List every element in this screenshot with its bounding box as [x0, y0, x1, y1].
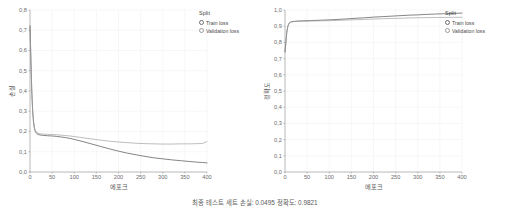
- svg-text:0,7: 0,7: [274, 56, 282, 62]
- svg-text:250: 250: [136, 174, 145, 180]
- svg-text:0,8: 0,8: [19, 7, 27, 13]
- legend-item-label: Validation loss: [206, 27, 239, 35]
- svg-text:0,5: 0,5: [19, 68, 27, 74]
- svg-text:350: 350: [180, 174, 189, 180]
- open-circle-icon: [199, 20, 204, 25]
- svg-text:에포크: 에포크: [365, 183, 383, 191]
- open-circle-icon: [445, 20, 450, 25]
- svg-text:400: 400: [457, 174, 466, 180]
- svg-text:300: 300: [158, 174, 167, 180]
- svg-text:150: 150: [92, 174, 101, 180]
- svg-text:0,6: 0,6: [274, 72, 282, 78]
- svg-text:손실: 손실: [8, 85, 15, 97]
- svg-text:0,0: 0,0: [19, 169, 27, 175]
- figure-caption: 최종 테스트 세트 손실: 0.0495 정확도: 0.9821: [0, 198, 510, 207]
- svg-text:150: 150: [347, 174, 356, 180]
- svg-text:0: 0: [28, 174, 31, 180]
- svg-text:200: 200: [369, 174, 378, 180]
- svg-text:0,3: 0,3: [274, 120, 282, 126]
- svg-text:0,4: 0,4: [274, 104, 282, 110]
- legend-title: Split: [199, 9, 239, 17]
- svg-text:1,0: 1,0: [274, 7, 282, 13]
- loss-legend: Split Train loss Validation loss: [199, 9, 239, 35]
- legend-item-train-loss[interactable]: Train loss: [445, 19, 485, 27]
- svg-text:0,5: 0,5: [274, 88, 282, 94]
- legend-item-label: Train loss: [452, 19, 474, 27]
- svg-text:0,0: 0,0: [274, 169, 282, 175]
- legend-title: Split: [445, 9, 485, 17]
- legend-item-validation-loss[interactable]: Validation loss: [199, 27, 239, 35]
- open-circle-icon: [199, 28, 204, 33]
- svg-text:0,1: 0,1: [274, 153, 282, 159]
- training-curves-figure: 0,00,10,20,30,40,50,60,70,80501001502002…: [0, 0, 510, 210]
- svg-text:0,4: 0,4: [19, 88, 27, 94]
- open-circle-icon: [445, 28, 450, 33]
- svg-text:50: 50: [304, 174, 310, 180]
- loss-panel: 0,00,10,20,30,40,50,60,70,80501001502002…: [0, 0, 255, 210]
- svg-text:0,7: 0,7: [19, 27, 27, 33]
- svg-text:0,3: 0,3: [19, 108, 27, 114]
- legend-item-validation-loss[interactable]: Validation loss: [445, 27, 485, 35]
- svg-text:정확도: 정확도: [263, 82, 271, 100]
- accuracy-legend: Split Train loss Validation loss: [445, 9, 485, 35]
- svg-text:0,2: 0,2: [274, 137, 282, 143]
- legend-item-train-loss[interactable]: Train loss: [199, 19, 239, 27]
- svg-text:300: 300: [413, 174, 422, 180]
- svg-text:350: 350: [435, 174, 444, 180]
- svg-text:250: 250: [391, 174, 400, 180]
- svg-text:0,1: 0,1: [19, 149, 27, 155]
- legend-item-label: Validation loss: [452, 27, 485, 35]
- svg-text:0,8: 0,8: [274, 39, 282, 45]
- svg-text:100: 100: [325, 174, 334, 180]
- svg-text:0,6: 0,6: [19, 47, 27, 53]
- svg-text:0,9: 0,9: [274, 23, 282, 29]
- svg-text:400: 400: [202, 174, 211, 180]
- svg-text:100: 100: [70, 174, 79, 180]
- svg-text:0: 0: [283, 174, 286, 180]
- svg-text:50: 50: [49, 174, 55, 180]
- legend-item-label: Train loss: [206, 19, 228, 27]
- svg-text:에포크: 에포크: [110, 183, 128, 191]
- svg-text:0,2: 0,2: [19, 128, 27, 134]
- svg-text:200: 200: [114, 174, 123, 180]
